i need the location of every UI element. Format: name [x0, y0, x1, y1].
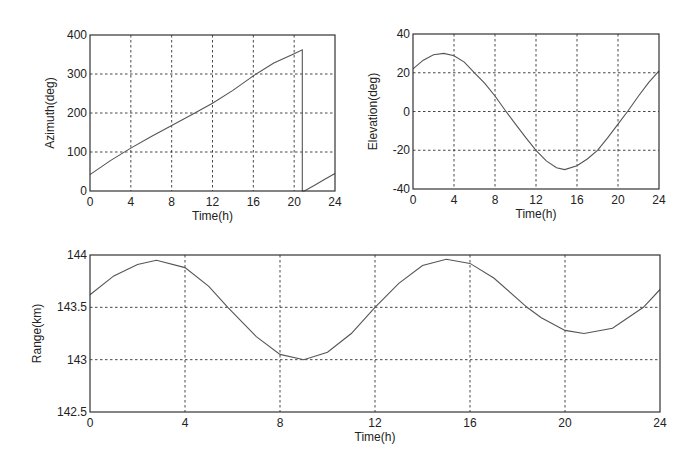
- y-axis-label: Azimuth(deg): [43, 77, 57, 148]
- x-tick-label: 12: [206, 195, 220, 209]
- x-tick-label: 8: [492, 193, 499, 207]
- figure-canvas: 048121620240100200300400Time(h)Azimuth(d…: [0, 0, 694, 476]
- x-axis-label: Time(h): [516, 207, 557, 221]
- y-tick-label: 200: [67, 106, 87, 120]
- y-tick-label: 144: [67, 248, 87, 262]
- y-tick-label: 143: [67, 353, 87, 367]
- x-tick-label: 0: [87, 195, 94, 209]
- x-tick-label: 4: [127, 195, 134, 209]
- y-axis-label: Elevation(deg): [366, 73, 380, 150]
- y-tick-label: 143.5: [57, 300, 87, 314]
- x-tick-label: 12: [368, 416, 382, 430]
- x-tick-label: 4: [451, 193, 458, 207]
- x-tick-label: 20: [287, 195, 301, 209]
- y-tick-label: -40: [393, 182, 411, 196]
- x-axis-label: Time(h): [192, 209, 233, 223]
- x-tick-label: 0: [410, 193, 417, 207]
- y-tick-label: 100: [67, 145, 87, 159]
- y-tick-label: 20: [397, 66, 411, 80]
- x-tick-label: 24: [328, 195, 342, 209]
- plot-frame: [90, 255, 660, 412]
- x-tick-label: 20: [558, 416, 572, 430]
- y-tick-label: 0: [80, 184, 87, 198]
- y-tick-label: 40: [397, 27, 411, 41]
- x-axis-label: Time(h): [355, 430, 396, 444]
- azimuth-chart: 048121620240100200300400Time(h)Azimuth(d…: [43, 28, 342, 223]
- x-tick-label: 4: [182, 416, 189, 430]
- y-tick-label: 142.5: [57, 405, 87, 419]
- y-tick-label: -20: [393, 143, 411, 157]
- x-tick-label: 24: [653, 416, 667, 430]
- elevation-chart: 04812162024-40-2002040Time(h)Elevation(d…: [366, 27, 666, 221]
- x-tick-label: 12: [529, 193, 543, 207]
- range-curve: [90, 259, 660, 360]
- x-tick-label: 20: [611, 193, 625, 207]
- y-axis-label: Range(km): [30, 304, 44, 363]
- x-tick-label: 8: [168, 195, 175, 209]
- x-tick-label: 16: [570, 193, 584, 207]
- x-tick-label: 0: [87, 416, 94, 430]
- y-tick-label: 300: [67, 67, 87, 81]
- x-tick-label: 16: [463, 416, 477, 430]
- x-tick-label: 24: [652, 193, 666, 207]
- x-tick-label: 16: [247, 195, 261, 209]
- y-tick-label: 400: [67, 28, 87, 42]
- y-tick-label: 0: [403, 105, 410, 119]
- x-tick-label: 8: [277, 416, 284, 430]
- range-chart: 04812162024142.5143143.5144Time(h)Range(…: [30, 248, 667, 444]
